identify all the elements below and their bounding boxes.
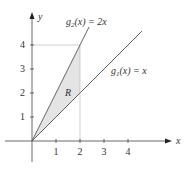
y-axis-arrow-icon [30,12,35,19]
y-tick-3: 3 [20,63,25,74]
x-axis-label: x [175,135,181,146]
g1-line [32,31,142,141]
y-tick-1: 1 [20,111,25,122]
x-tick-4: 4 [126,146,131,157]
g2-label: g2(x) = 2x [66,16,107,29]
g2-line [32,27,89,141]
plot-canvas: 1 2 3 4 1 2 3 4 x y g2(x) = 2x g1(x) = x… [0,0,184,169]
y-tick-4: 4 [20,39,25,50]
y-tick-2: 2 [20,87,25,98]
g1-label: g1(x) = x [111,65,147,78]
region-label: R [64,87,71,98]
x-axis-arrow-icon [165,139,172,144]
x-tick-3: 3 [102,146,107,157]
y-axis-label: y [37,11,43,22]
region-diagram: 1 2 3 4 1 2 3 4 x y g2(x) = 2x g1(x) = x… [0,0,184,169]
x-tick-2: 2 [78,146,83,157]
x-tick-1: 1 [54,146,59,157]
